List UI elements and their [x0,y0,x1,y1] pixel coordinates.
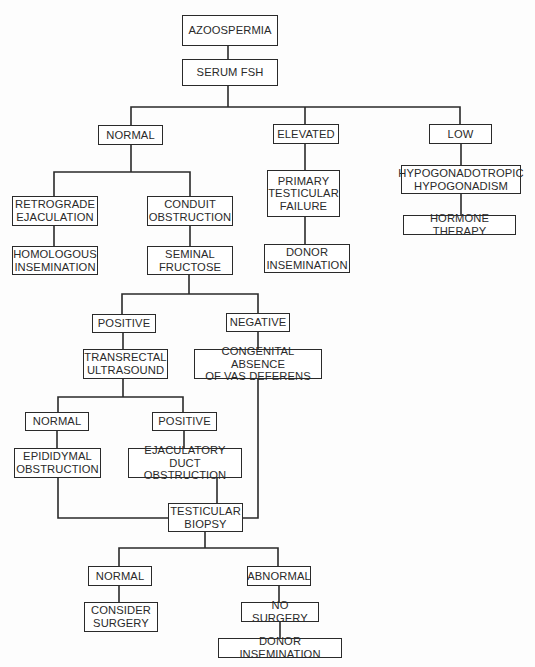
node-ejaculatory-duct-obstruction: EJACULATORY DUCT OBSTRUCTION [128,448,242,478]
node-consider-surgery: CONSIDER SURGERY [84,602,158,632]
node-primary-testicular-failure: PRIMARY TESTICULAR FAILURE [267,170,340,217]
flowchart-canvas: AZOOSPERMIASERUM FSHNORMALELEVATEDLOWRET… [0,0,535,667]
node-congenital-absence-vas: CONGENITAL ABSENCE OF VAS DEFERENS [194,349,322,379]
node-no-surgery: NO SURGERY [241,602,319,622]
node-seminal-fructose: SEMINAL FRUCTOSE [147,246,233,275]
connector-line [131,86,460,125]
node-testicular-biopsy: TESTICULAR BIOPSY [168,503,243,532]
connector-line [54,145,190,196]
connector-line [119,532,278,566]
node-azoospermia: AZOOSPERMIA [182,15,278,46]
connector-line [243,379,258,518]
node-fructose-positive: POSITIVE [92,314,156,333]
node-donor-insemination-2: DONOR INSEMINATION [218,638,342,658]
connector-line [122,275,258,314]
node-hypogonadotropic-hypogonadism: HYPOGONADOTROPIC HYPOGONADISM [401,165,521,194]
node-tru-normal: NORMAL [25,412,89,431]
node-epididymal-obstruction: EPIDIDYMAL OBSTRUCTION [14,448,101,478]
node-donor-insemination-1: DONOR INSEMINATION [264,244,350,273]
node-fsh-low: LOW [429,124,492,144]
node-tru-positive: POSITIVE [152,412,217,431]
node-conduit-obstruction: CONDUIT OBSTRUCTION [147,196,233,226]
connector-line [58,478,168,518]
node-biopsy-abnormal: ABNORMAL [247,566,311,586]
node-transrectal-ultrasound: TRANSRECTAL ULTRASOUND [83,349,168,379]
node-serum-fsh: SERUM FSH [182,59,278,86]
node-biopsy-normal: NORMAL [88,566,152,586]
connector-line [58,379,183,412]
node-fsh-elevated: ELEVATED [273,124,339,144]
node-homologous-insemination: HOMOLOGOUS INSEMINATION [12,246,98,275]
node-fructose-negative: NEGATIVE [226,313,290,332]
node-hormone-therapy: HORMONE THERAPY [403,215,516,235]
node-retrograde-ejaculation: RETROGRADE EJACULATION [12,196,98,226]
node-fsh-normal: NORMAL [98,125,163,145]
